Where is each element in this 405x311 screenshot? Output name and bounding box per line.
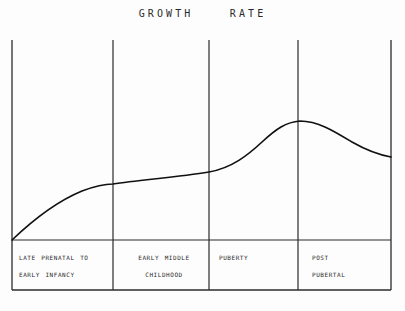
stage-label-early-middle-childhood: Early middle childhood bbox=[122, 249, 206, 283]
stage-label-puberty: Puberty bbox=[219, 249, 299, 266]
growth-rate-chart-figure: GROWTH RATE Late prenatal to early infan… bbox=[0, 0, 405, 311]
growth-rate-curve bbox=[12, 121, 391, 240]
stage-label-post-pubertal: Post Pubertal bbox=[312, 249, 388, 283]
stage-label-late-prenatal-to-early-infancy: Late prenatal to early infancy bbox=[19, 249, 111, 283]
